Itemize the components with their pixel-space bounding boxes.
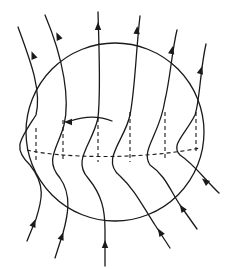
arrowhead-icon	[102, 240, 108, 248]
sphere-outline	[26, 43, 204, 221]
field-line-path	[112, 16, 170, 248]
internal-curved-arrow-icon	[64, 117, 112, 125]
field-line-4	[112, 16, 170, 248]
field-line-3	[82, 12, 108, 266]
curved-arrow-path	[70, 117, 112, 121]
field-line-path	[45, 15, 68, 258]
arrowhead-icon	[158, 229, 165, 237]
field-line-path	[82, 12, 105, 266]
sphere-field-lines-diagram	[0, 0, 230, 269]
field-line-2	[45, 15, 68, 258]
field-line-path	[177, 44, 219, 193]
field-line-5	[147, 30, 197, 229]
arrowhead-icon	[197, 66, 203, 75]
arrowhead-icon	[180, 205, 187, 213]
field-lines	[18, 12, 219, 266]
field-line-1	[18, 27, 41, 241]
arrowhead-icon	[30, 219, 36, 228]
field-line-path	[147, 30, 197, 229]
arrowhead-icon	[32, 51, 38, 60]
sphere	[26, 43, 204, 221]
arrowhead-icon	[95, 22, 101, 30]
field-line-path	[18, 27, 41, 241]
arrowhead-icon	[58, 232, 64, 241]
field-line-6	[177, 44, 219, 193]
arrowhead-icon	[56, 32, 62, 41]
